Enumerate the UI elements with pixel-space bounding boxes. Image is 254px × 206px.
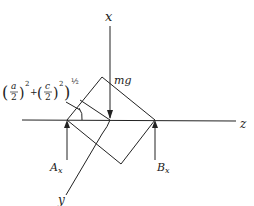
svg-text:2: 2 xyxy=(45,92,51,102)
svg-text:): ) xyxy=(19,85,24,101)
svg-text:2: 2 xyxy=(25,80,29,88)
reaction-a-label: Ax xyxy=(49,161,63,175)
svg-text:(: ( xyxy=(37,85,42,101)
reaction-b-label: Bx xyxy=(156,161,170,175)
z-axis xyxy=(22,120,236,121)
x-axis-label: x xyxy=(105,9,113,24)
free-body-diagram: z x mg y Ax Bx ( a 2 ) 2 + ( c 2 ) 2 ) ½ xyxy=(0,0,254,206)
svg-text:2: 2 xyxy=(59,80,63,88)
z-axis-label: z xyxy=(239,117,247,131)
svg-text:(: ( xyxy=(2,83,8,102)
weight-arrowhead-icon xyxy=(107,110,113,119)
svg-text:2: 2 xyxy=(11,92,17,102)
y-axis xyxy=(66,120,110,195)
dimension-formula: ( a 2 ) 2 + ( c 2 ) 2 ) ½ xyxy=(2,77,79,102)
reaction-b-arrowhead-icon xyxy=(152,120,158,128)
y-axis-label: y xyxy=(57,193,65,206)
svg-text:c: c xyxy=(45,81,50,91)
svg-text:): ) xyxy=(64,83,70,102)
inner-edge-line xyxy=(80,100,110,120)
weight-label: mg xyxy=(114,74,131,87)
svg-text:): ) xyxy=(53,85,58,101)
svg-text:½: ½ xyxy=(71,77,79,86)
svg-text:a: a xyxy=(11,81,16,91)
